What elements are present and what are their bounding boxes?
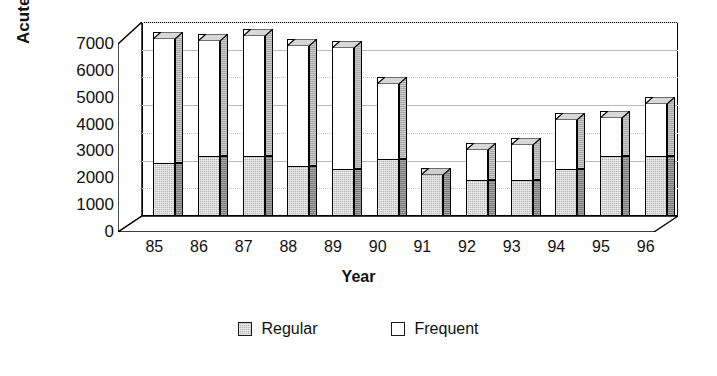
y-axis-tick-label: 2000 bbox=[76, 168, 114, 188]
y-axis-tick-label: 4000 bbox=[76, 115, 114, 135]
bar-87 bbox=[243, 29, 265, 216]
y-axis-tick-label: 3000 bbox=[76, 141, 114, 161]
bar-top-face bbox=[421, 161, 451, 168]
bar-91 bbox=[421, 168, 443, 217]
bar-89 bbox=[332, 41, 354, 216]
bar-top-face bbox=[645, 90, 675, 97]
bar-top-face bbox=[198, 27, 228, 34]
x-axis-tick-label: 90 bbox=[369, 238, 387, 256]
bar-top-face bbox=[243, 22, 273, 29]
x-axis-tick-labels: 858687888990919293949596 bbox=[118, 238, 678, 260]
legend-label-frequent: Frequent bbox=[414, 320, 478, 338]
y-axis-tick-label: 0 bbox=[105, 222, 114, 242]
bar-segment-regular bbox=[198, 156, 220, 216]
bar-segment-frequent bbox=[198, 34, 220, 156]
bar-top-face bbox=[555, 106, 585, 113]
y-axis-title: Acute Visits bbox=[14, 0, 38, 80]
bar-95 bbox=[600, 111, 622, 216]
bar-top-face bbox=[377, 70, 407, 77]
bar-segment-regular bbox=[287, 166, 309, 216]
bar-segment-regular bbox=[511, 180, 533, 216]
bar-side-frequent bbox=[577, 113, 585, 168]
bar-segment-frequent bbox=[287, 39, 309, 166]
bar-88 bbox=[287, 39, 309, 216]
bar-side-frequent bbox=[309, 39, 317, 166]
bar-segment-regular bbox=[421, 168, 443, 217]
x-axis-tick-label: 91 bbox=[413, 238, 431, 256]
bar-side-frequent bbox=[265, 29, 273, 156]
bar-side-regular bbox=[443, 168, 451, 217]
x-axis-tick-label: 85 bbox=[145, 238, 163, 256]
x-axis-tick-label: 94 bbox=[547, 238, 565, 256]
bar-segment-regular bbox=[600, 156, 622, 216]
plot-area bbox=[118, 22, 678, 232]
bar-side-frequent bbox=[533, 138, 541, 180]
bar-top-face bbox=[153, 25, 183, 32]
bar-side-frequent bbox=[354, 41, 362, 168]
bar-side-regular bbox=[577, 169, 585, 216]
bar-side-frequent bbox=[488, 143, 496, 180]
bar-segment-regular bbox=[153, 163, 175, 216]
bar-top-face bbox=[600, 104, 630, 111]
bar-segment-frequent bbox=[645, 97, 667, 157]
bar-92 bbox=[466, 143, 488, 216]
bar-side-frequent bbox=[175, 32, 183, 164]
bar-side-regular bbox=[175, 163, 183, 216]
bar-side-regular bbox=[265, 156, 273, 216]
x-axis-title: Year bbox=[0, 268, 717, 286]
bar-93 bbox=[511, 138, 533, 216]
bar-segment-frequent bbox=[555, 113, 577, 168]
gray-swatch-icon bbox=[238, 322, 252, 336]
bar-segment-frequent bbox=[243, 29, 265, 156]
bar-series-container bbox=[142, 22, 678, 216]
y-axis-tick-label: 1000 bbox=[76, 195, 114, 215]
legend-item-frequent: Frequent bbox=[391, 320, 478, 338]
bar-side-frequent bbox=[667, 97, 675, 157]
bar-94 bbox=[555, 113, 577, 216]
chart-legend: Regular Frequent bbox=[0, 320, 717, 338]
bar-segment-regular bbox=[645, 156, 667, 216]
bar-side-regular bbox=[667, 156, 675, 216]
x-axis-tick-label: 88 bbox=[279, 238, 297, 256]
y-axis-tick-label: 7000 bbox=[76, 34, 114, 54]
bar-segment-frequent bbox=[153, 32, 175, 164]
x-axis-tick-label: 93 bbox=[503, 238, 521, 256]
bar-segment-frequent bbox=[377, 77, 399, 159]
bar-side-regular bbox=[488, 180, 496, 216]
bar-96 bbox=[645, 97, 667, 216]
bar-segment-frequent bbox=[466, 143, 488, 180]
x-axis-tick-label: 96 bbox=[637, 238, 655, 256]
y-axis-tick-label: 5000 bbox=[76, 88, 114, 108]
bar-side-regular bbox=[354, 169, 362, 216]
bar-segment-frequent bbox=[511, 138, 533, 180]
legend-label-regular: Regular bbox=[261, 320, 317, 338]
bar-segment-frequent bbox=[600, 111, 622, 157]
bar-segment-frequent bbox=[332, 41, 354, 168]
bar-side-frequent bbox=[399, 77, 407, 159]
y-axis-title-area: Acute Visits bbox=[0, 28, 40, 228]
x-axis-tick-label: 86 bbox=[190, 238, 208, 256]
bar-segment-regular bbox=[466, 180, 488, 216]
bar-segment-regular bbox=[243, 156, 265, 216]
legend-item-regular: Regular bbox=[238, 320, 317, 338]
x-axis-tick-label: 87 bbox=[235, 238, 253, 256]
x-axis-tick-label: 92 bbox=[458, 238, 476, 256]
bar-side-regular bbox=[220, 156, 228, 216]
bar-top-face bbox=[511, 131, 541, 138]
bar-side-frequent bbox=[622, 111, 630, 157]
bar-top-face bbox=[287, 32, 317, 39]
bar-85 bbox=[153, 32, 175, 216]
bar-90 bbox=[377, 77, 399, 216]
bar-top-face bbox=[466, 136, 496, 143]
bar-side-regular bbox=[622, 156, 630, 216]
bar-side-regular bbox=[399, 159, 407, 216]
bar-side-frequent bbox=[220, 34, 228, 156]
x-axis-tick-label: 95 bbox=[592, 238, 610, 256]
y-axis-tick-labels: 01000200030004000500060007000 bbox=[48, 0, 114, 250]
bar-side-regular bbox=[309, 166, 317, 216]
bar-top-face bbox=[332, 34, 362, 41]
bar-segment-regular bbox=[332, 169, 354, 216]
chart-figure: Acute Visits 010002000300040005000600070… bbox=[0, 0, 717, 376]
bar-86 bbox=[198, 34, 220, 216]
white-swatch-icon bbox=[391, 322, 405, 336]
